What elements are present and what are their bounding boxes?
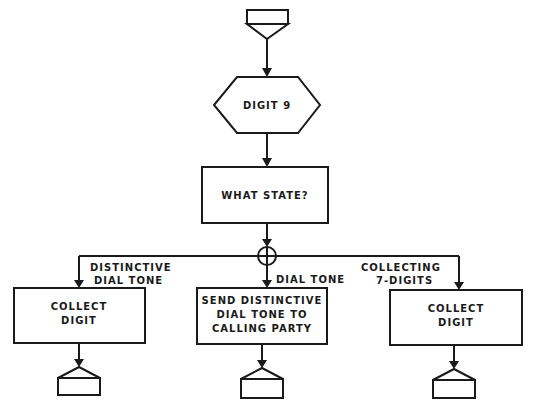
branch-3-condition: COLLECTING (361, 262, 441, 273)
action-box-label: CALLING PARTY (212, 323, 312, 334)
arrowhead-icon (262, 158, 272, 167)
action-box-collect-digit-right: COLLECT DIGIT (390, 290, 522, 345)
branch-3-condition-2: 7-DIGITS (376, 275, 433, 286)
action-box-send-distinctive-dial-tone: SEND DISTINCTIVE DIAL TONE TO CALLING PA… (197, 288, 327, 344)
action-box-label: DIAL TONE TO (217, 309, 308, 320)
action-box-label: COLLECT (428, 303, 485, 314)
arrowhead-icon (74, 359, 84, 367)
action-box-label: DIGIT (61, 315, 97, 326)
state-box-label: WHAT STATE? (221, 190, 308, 201)
arrowhead-icon (262, 239, 272, 247)
arrowhead-icon (74, 280, 84, 288)
arrowhead-icon (449, 361, 459, 369)
action-box-label: COLLECT (51, 301, 108, 312)
action-box-label: DIGIT (438, 317, 474, 328)
exit-connector-3 (433, 369, 475, 398)
action-box-collect-digit-left: COLLECT DIGIT (14, 288, 145, 343)
action-box-label: SEND DISTINCTIVE (202, 295, 323, 306)
entry-connector (247, 10, 288, 39)
hexagon-label: DIGIT 9 (243, 100, 291, 111)
start-hexagon: DIGIT 9 (214, 77, 320, 133)
arrowhead-icon (257, 360, 267, 368)
arrowhead-icon (454, 282, 464, 290)
branch-1-condition-2: DIAL TONE (94, 275, 163, 286)
exit-connector-2 (241, 368, 283, 398)
arrowhead-icon (262, 280, 272, 288)
arrowhead-icon (262, 68, 272, 77)
branch-2-condition: DIAL TONE (276, 274, 345, 285)
junction-circle (258, 247, 276, 265)
state-box: WHAT STATE? (202, 167, 328, 223)
flowchart-diagram: DIGIT 9 WHAT STATE? DISTINCTIVE DIAL TON… (0, 0, 536, 411)
exit-connector-1 (58, 367, 100, 395)
branch-1-condition: DISTINCTIVE (90, 262, 172, 273)
